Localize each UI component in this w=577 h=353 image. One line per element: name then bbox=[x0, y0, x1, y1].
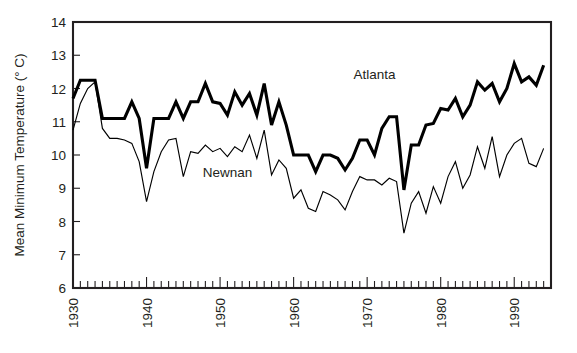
y-tick-label: 8 bbox=[58, 215, 66, 230]
x-tick-label: 1970 bbox=[360, 298, 375, 328]
x-tick-label: 1940 bbox=[140, 298, 155, 328]
x-tick-label: 1950 bbox=[213, 298, 228, 328]
y-tick-label: 6 bbox=[58, 281, 66, 296]
x-tick-label: 1990 bbox=[507, 298, 522, 328]
y-tick-label: 10 bbox=[51, 148, 66, 163]
y-tick-label: 9 bbox=[58, 181, 66, 196]
y-axis-tick-labels: 67891011121314 bbox=[51, 15, 67, 296]
y-tick-label: 7 bbox=[58, 248, 66, 263]
chart-figure: Mean Minimum Temperature (° C) 678910111… bbox=[0, 0, 577, 353]
y-axis-title: Mean Minimum Temperature (° C) bbox=[12, 53, 27, 256]
series-label-newnan: Newnan bbox=[203, 165, 253, 180]
y-tick-label: 13 bbox=[51, 48, 66, 63]
x-tick-label: 1980 bbox=[434, 298, 449, 328]
x-axis-tick-labels: 1930194019501960197019801990 bbox=[66, 298, 522, 328]
y-tick-label: 11 bbox=[52, 115, 66, 130]
series-label-atlanta: Atlanta bbox=[353, 67, 396, 82]
data-series-group bbox=[73, 64, 544, 234]
temperature-line-chart: Mean Minimum Temperature (° C) 678910111… bbox=[0, 0, 577, 353]
y-tick-label: 14 bbox=[51, 15, 67, 30]
y-tick-label: 12 bbox=[51, 82, 66, 97]
x-tick-label: 1960 bbox=[287, 298, 302, 328]
series-line-atlanta bbox=[73, 64, 544, 190]
x-tick-label: 1930 bbox=[66, 298, 81, 328]
x-axis-minor-ticks bbox=[73, 277, 551, 288]
